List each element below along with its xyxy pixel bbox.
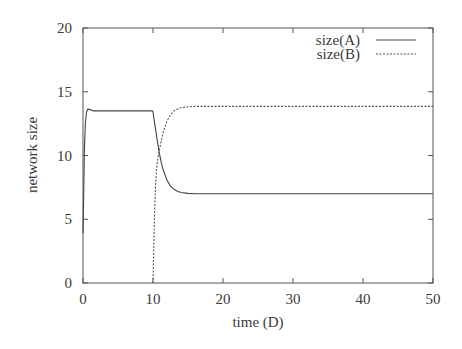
plot-frame [83,28,433,283]
x-tick-label: 0 [79,291,87,307]
legend-label: size(B) [317,46,360,63]
y-tick-label: 5 [65,211,73,227]
series-group [83,106,433,283]
axis-ticks [83,28,433,283]
series-line-size-a [83,109,433,233]
y-tick-label: 0 [65,275,73,291]
x-axis-label: time (D) [232,314,283,331]
series-line-size-b [153,106,433,283]
plot-area [83,28,433,283]
y-tick-label: 15 [57,84,72,100]
y-tick-label: 10 [57,148,72,164]
legend-item-size-b: size(B) [317,46,416,63]
x-tick-label: 10 [146,291,161,307]
x-tick-label: 50 [426,291,441,307]
x-tick-label: 20 [216,291,231,307]
x-tick-label: 40 [356,291,371,307]
x-axis-tick-labels: 01020304050 [79,291,440,307]
y-axis-label: network size [24,117,40,194]
y-tick-label: 20 [57,20,72,36]
x-tick-label: 30 [286,291,301,307]
y-axis-tick-labels: 05101520 [57,20,72,291]
legend: size(A) size(B) [316,32,416,63]
line-chart: 01020304050 05101520 time (D) network si… [0,0,462,349]
